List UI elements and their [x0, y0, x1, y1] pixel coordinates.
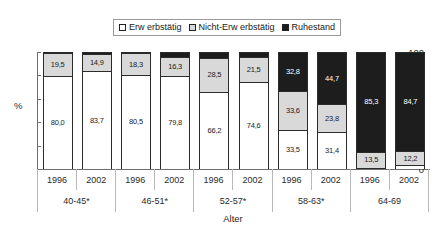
bar-slot[interactable]: 84,712,2 — [391, 52, 430, 169]
bar-slot[interactable]: 18,380,5 — [116, 52, 155, 169]
x-axis-group-cell: 46-51* — [115, 190, 193, 212]
segment-erwerbstaetig[interactable]: 66,2 — [199, 92, 229, 169]
segment-erwerbstaetig[interactable]: 79,8 — [160, 76, 190, 169]
x-axis-year-cell: 1996 — [115, 169, 154, 190]
bar-group: 32,833,633,544,723,831,4 — [273, 52, 351, 169]
segment-value-label: 33,5 — [286, 146, 300, 154]
legend-swatch-ruhestand-icon — [282, 24, 289, 31]
stacked-bar[interactable]: 84,712,2 — [395, 52, 425, 169]
x-axis-group-cell: 64-69 — [350, 190, 429, 212]
x-axis-year-cell: 2002 — [154, 169, 193, 190]
x-axis-year-cell: 2002 — [311, 169, 350, 190]
stacked-bar-chart: Erw erbstätig Nicht-Erw erbstätig Ruhest… — [0, 0, 438, 248]
segment-value-label: 18,3 — [129, 61, 143, 69]
segment-value-label: 83,7 — [90, 117, 104, 125]
bar-group: 19,580,014,983,7 — [38, 52, 116, 169]
segment-value-label: 23,8 — [325, 115, 339, 123]
bar-slot[interactable]: 16,379,8 — [156, 52, 195, 169]
stacked-bar[interactable]: 32,833,633,5 — [278, 52, 308, 169]
bar-slot[interactable]: 32,833,633,5 — [273, 52, 312, 169]
segment-erwerbstaetig[interactable]: 31,4 — [317, 132, 347, 169]
segment-erwerbstaetig[interactable]: 74,6 — [239, 82, 269, 169]
bar-slot[interactable]: 14,983,7 — [77, 52, 116, 169]
segment-nicht-erwerbstaetig[interactable]: 13,5 — [356, 152, 386, 168]
stacked-bar[interactable]: 19,580,0 — [43, 52, 73, 169]
segment-value-label: 80,0 — [51, 119, 65, 127]
segment-value-label: 21,5 — [247, 66, 261, 74]
bar-group: 85,313,584,712,2 — [352, 52, 430, 169]
bar-group: 28,566,221,574,6 — [195, 52, 273, 169]
bar-slot[interactable]: 85,313,5 — [352, 52, 391, 169]
x-axis-group-row: 40-45*46-51*52-57*58-63*64-69 — [37, 190, 429, 212]
segment-ruhestand[interactable]: 32,8 — [278, 52, 308, 90]
legend-item-nicht-erwerbstaetig: Nicht-Erw erbstätig — [189, 22, 275, 33]
chart-legend: Erw erbstätig Nicht-Erw erbstätig Ruhest… — [113, 19, 341, 36]
stacked-bar[interactable]: 44,723,831,4 — [317, 52, 347, 169]
segment-value-label: 14,9 — [90, 59, 104, 67]
bar-slot[interactable]: 21,574,6 — [234, 52, 273, 169]
segment-ruhestand[interactable]: 85,3 — [356, 52, 386, 152]
segment-value-label: 12,2 — [404, 155, 418, 163]
segment-value-label: 13,5 — [364, 156, 378, 164]
segment-erwerbstaetig[interactable]: 83,7 — [82, 71, 112, 169]
segment-value-label: 85,3 — [364, 98, 378, 106]
legend-swatch-nicht-erwerbstaetig-icon — [189, 24, 196, 31]
x-axis-year-cell: 2002 — [389, 169, 429, 190]
segment-value-label: 33,6 — [286, 107, 300, 115]
segment-value-label: 28,5 — [208, 71, 222, 79]
stacked-bar[interactable]: 14,983,7 — [82, 52, 112, 169]
segment-nicht-erwerbstaetig[interactable]: 23,8 — [317, 104, 347, 132]
segment-erwerbstaetig[interactable]: 80,0 — [43, 76, 73, 169]
legend-label-erwerbstaetig: Erw erbstätig — [129, 22, 182, 33]
legend-item-erwerbstaetig: Erw erbstätig — [119, 22, 182, 33]
x-axis-year-cell: 1996 — [193, 169, 232, 190]
segment-value-label: 84,7 — [404, 98, 418, 106]
legend-label-ruhestand: Ruhestand — [292, 22, 336, 33]
x-axis-table: 1996200219962002199620021996200219962002… — [37, 169, 429, 212]
segment-value-label: 44,7 — [325, 75, 339, 83]
segment-value-label: 19,5 — [51, 61, 65, 69]
segment-ruhestand[interactable]: 84,7 — [395, 52, 425, 151]
plot-area: 020406080100 19,580,014,983,718,380,516,… — [37, 52, 430, 170]
segment-value-label: 80,5 — [129, 118, 143, 126]
segment-nicht-erwerbstaetig[interactable]: 28,5 — [199, 58, 229, 91]
x-axis-year-cell: 1996 — [350, 169, 389, 190]
legend-swatch-erwerbstaetig-icon — [119, 24, 126, 31]
segment-nicht-erwerbstaetig[interactable]: 18,3 — [121, 53, 151, 74]
x-axis-year-cell: 2002 — [76, 169, 115, 190]
stacked-bar[interactable]: 28,566,2 — [199, 52, 229, 169]
segment-value-label: 79,8 — [168, 119, 182, 127]
segment-nicht-erwerbstaetig[interactable]: 16,3 — [160, 57, 190, 76]
segment-ruhestand[interactable]: 44,7 — [317, 52, 347, 104]
bar-slot[interactable]: 44,723,831,4 — [312, 52, 351, 169]
segment-value-label: 32,8 — [286, 68, 300, 76]
stacked-bar[interactable]: 18,380,5 — [121, 52, 151, 169]
segment-nicht-erwerbstaetig[interactable]: 19,5 — [43, 53, 73, 76]
x-axis-year-cell: 1996 — [272, 169, 311, 190]
segment-value-label: 31,4 — [325, 147, 339, 155]
segment-nicht-erwerbstaetig[interactable]: 14,9 — [82, 54, 112, 71]
segment-erwerbstaetig[interactable]: 33,5 — [278, 130, 308, 169]
bar-series-container: 19,580,014,983,718,380,516,379,828,566,2… — [38, 52, 430, 169]
legend-label-nicht-erwerbstaetig: Nicht-Erw erbstätig — [199, 22, 275, 33]
segment-erwerbstaetig[interactable]: 80,5 — [121, 75, 151, 169]
x-axis-group-cell: 58-63* — [272, 190, 350, 212]
x-axis-year-cell: 2002 — [232, 169, 271, 190]
stacked-bar[interactable]: 16,379,8 — [160, 52, 190, 169]
legend-item-ruhestand: Ruhestand — [282, 22, 336, 33]
bar-slot[interactable]: 28,566,2 — [195, 52, 234, 169]
y-axis-label: % — [14, 100, 22, 111]
segment-value-label: 66,2 — [208, 127, 222, 135]
x-axis-title: Alter — [37, 213, 429, 224]
segment-nicht-erwerbstaetig[interactable]: 33,6 — [278, 91, 308, 130]
x-axis-group-cell: 40-45* — [37, 190, 115, 212]
bar-group: 18,380,516,379,8 — [116, 52, 194, 169]
segment-value-label: 16,3 — [168, 63, 182, 71]
stacked-bar[interactable]: 85,313,5 — [356, 52, 386, 169]
bar-slot[interactable]: 19,580,0 — [38, 52, 77, 169]
x-axis-year-row: 1996200219962002199620021996200219962002 — [37, 169, 429, 190]
stacked-bar[interactable]: 21,574,6 — [239, 52, 269, 169]
segment-nicht-erwerbstaetig[interactable]: 12,2 — [395, 151, 425, 165]
segment-nicht-erwerbstaetig[interactable]: 21,5 — [239, 57, 269, 82]
segment-value-label: 74,6 — [247, 122, 261, 130]
